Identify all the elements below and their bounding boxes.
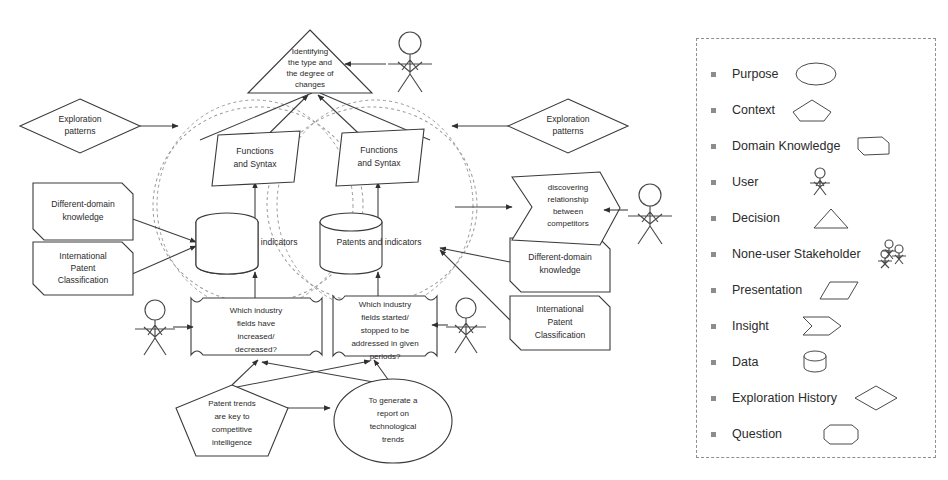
node-domain-knowledge-left-2[interactable]: International Patent Classification [33,242,133,295]
legend-item-none-user-stakeholder[interactable]: None-user Stakeholder [711,241,927,267]
node-question-right-line4: addressed in given [351,339,418,348]
node-domain-knowledge-left-1[interactable]: Different-domain knowledge [33,183,133,240]
node-exploration-left-line1: Exploration [59,114,102,124]
node-purpose-bottom[interactable]: To generate a report on technological tr… [334,379,452,463]
node-presentation-left[interactable]: Functions and Syntax [212,131,300,186]
legend-label-exploration-history: Exploration History [732,391,837,405]
legend-item-domain-knowledge[interactable]: Domain Knowledge [711,133,927,159]
legend-item-context[interactable]: Context [711,97,927,123]
node-insight-line2: relationship [548,195,589,204]
connector-dkright2-to-dataright [440,250,510,320]
folded-rect-icon [854,133,894,159]
node-exploration-patterns-right[interactable]: Exploration patterns [508,99,628,153]
legend-item-presentation[interactable]: Presentation [711,277,927,303]
node-dk-left2-line3: Classification [58,275,109,285]
node-decision-top-line2: the type and [288,58,332,67]
legend-item-decision[interactable]: Decision [711,205,927,231]
node-presentation-right[interactable]: Functions and Syntax [336,129,424,186]
node-decision-top-line1: Identifying [292,47,328,56]
connector-dkleft2-to-dataleft [130,246,196,275]
node-presentation-left-line1: Functions [236,146,273,156]
node-context-line4: intelligence [212,438,253,447]
legend-label-domain-knowledge: Domain Knowledge [732,139,840,153]
legend-item-data[interactable]: Data [711,349,927,375]
node-context-line2: are key to [214,412,250,421]
node-exploration-left-line2: patterns [64,126,95,136]
node-dk-right1-line2: knowledge [539,265,580,275]
node-dk-left1-line2: knowledge [62,212,103,222]
exploration-scope-ellipses [148,100,482,310]
node-dk-left2-line1: International [59,251,106,261]
node-question-right[interactable]: Which industry fields started/ stopped t… [333,296,437,361]
legend-bullet-icon [711,360,716,365]
legend-label-none-user-stakeholder: None-user Stakeholder [732,247,861,261]
node-domain-knowledge-right-2[interactable]: International Patent Classification [510,296,610,350]
legend-panel: Purpose Context Domain Knowledge User [696,38,936,458]
node-dk-left2-line2: Patent [71,263,96,273]
legend-label-context: Context [732,103,775,117]
node-context-line1: Patent trends [208,399,256,408]
legend-item-exploration-history[interactable]: Exploration History [711,385,927,411]
legend-item-purpose[interactable]: Purpose [711,61,927,87]
diagram-canvas: Identifying the type and the degree of c… [0,0,948,480]
legend-bullet-icon [711,144,716,149]
legend-label-data: Data [732,355,758,369]
node-dk-right2-line2: Patent [548,317,573,327]
legend-bullet-icon [711,72,716,77]
parallelogram-icon [816,277,862,303]
node-presentation-right-line1: Functions [360,145,397,155]
node-context-bottom[interactable]: Patent trends are key to competitive int… [176,385,288,456]
legend-item-insight[interactable]: Insight [711,313,927,339]
node-question-left-line1: Which industry [230,306,282,315]
node-purpose-line4: trends [382,435,404,444]
cylinder-icon [796,348,836,376]
legend-label-user: User [732,175,758,189]
node-decision-top[interactable]: Identifying the type and the degree of c… [248,30,372,93]
node-question-right-line3: stopped to be [361,326,410,335]
ellipse-icon [793,61,839,87]
node-purpose-line1: To generate a [369,396,418,405]
legend-bullet-icon [711,108,716,113]
legend-item-user[interactable]: User [711,169,927,195]
legend-bullet-icon [711,180,716,185]
stick-figure-group-icon [875,239,909,269]
node-exploration-right-line2: patterns [552,126,583,136]
rounded-rect-icon [820,420,866,448]
actor-user-bottom-right[interactable] [432,298,486,353]
triangle-icon [808,205,854,231]
node-question-left-line3: increased/ [238,332,276,341]
node-exploration-right-line1: Exploration [547,114,590,124]
node-domain-knowledge-right-1[interactable]: Different-domain knowledge [510,238,610,292]
legend-label-presentation: Presentation [732,283,802,297]
node-question-right-line5: periods? [370,352,401,361]
node-purpose-line2: report on [377,409,409,418]
diamond-icon [851,383,901,413]
node-exploration-patterns-left[interactable]: Exploration patterns [20,99,140,153]
actor-user-bottom-left[interactable] [135,300,193,355]
node-dk-right2-line1: International [536,304,583,314]
legend-item-question[interactable]: Question [711,421,927,447]
legend-label-decision: Decision [732,211,780,225]
legend-label-question: Question [732,427,782,441]
node-question-left[interactable]: Which industry fields have increased/ de… [191,298,322,355]
node-insight-line4: competitors [547,219,588,228]
connector-context-to-questionleft [232,360,258,385]
node-data-right[interactable]: Patents and indicators [320,213,422,274]
stick-figure-icon [802,167,842,197]
node-decision-top-line3: the degree of [286,69,334,78]
legend-label-insight: Insight [732,319,769,333]
node-context-line3: competitive [212,425,253,434]
pentagon-icon [789,97,835,123]
node-decision-top-line4: changes [295,80,325,89]
node-dk-right1-line1: Different-domain [528,252,592,262]
legend-bullet-icon [711,432,716,437]
node-insight-right[interactable]: discovering relationship between competi… [512,172,620,245]
legend-bullet-icon [711,216,716,221]
node-purpose-line3: technological [370,422,417,431]
node-presentation-right-line2: and Syntax [358,158,402,168]
chevron-arrow-icon [799,313,845,339]
legend-label-purpose: Purpose [732,67,779,81]
node-data-left[interactable]: Patents and indicators [196,213,314,274]
node-question-left-line2: fields have [237,319,276,328]
node-insight-line3: between [553,207,583,216]
